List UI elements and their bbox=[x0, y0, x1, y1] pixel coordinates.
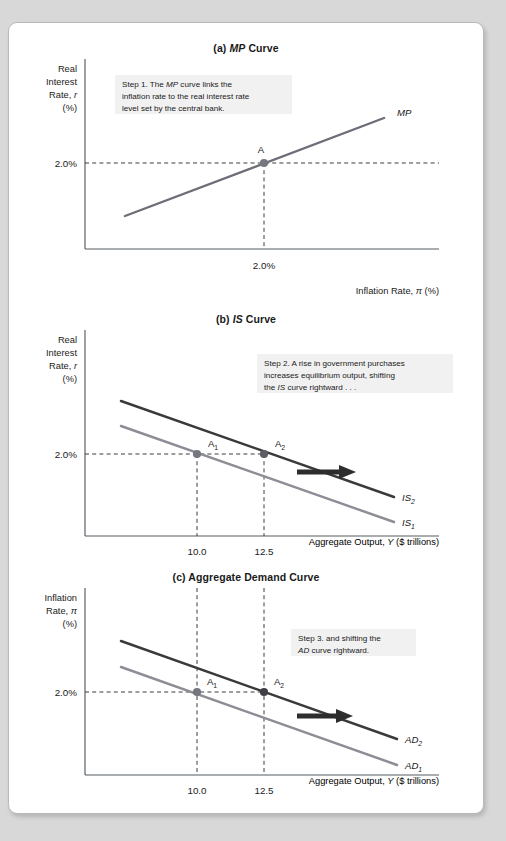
panel-a-point-a bbox=[260, 159, 268, 167]
panel-a-point-a-label: A bbox=[258, 144, 265, 155]
panel-b-ylabel-line-1: Real bbox=[58, 335, 77, 345]
panel-ad-curve: (c) Aggregate Demand Curve Inflation Rat… bbox=[9, 557, 483, 813]
panel-a-curve-mp bbox=[125, 118, 384, 216]
panel-a-ytick-label: 2.0% bbox=[55, 158, 78, 169]
panel-c-point-a2-label: A2 bbox=[274, 676, 284, 689]
panel-b-point-a1 bbox=[193, 450, 201, 458]
panel-a-xlabel: Inflation Rate, π (%) bbox=[356, 286, 439, 296]
panel-c-curve-label-ad2: AD2 bbox=[404, 734, 422, 747]
panel-b-point-a2-label: A2 bbox=[275, 438, 285, 451]
panel-c-note-line-1: Step 3. and shifting the bbox=[298, 634, 381, 643]
panel-b-point-a1-label: A1 bbox=[208, 438, 218, 451]
panel-a-chart: Real Interest Rate, r (%) MP A 2.0% 2.0%… bbox=[9, 23, 483, 299]
panel-c-ytick-label: 2.0% bbox=[55, 687, 78, 698]
panel-c-ylabel-line-3: (%) bbox=[63, 619, 77, 629]
panel-a-ylabel-line-1: Real bbox=[58, 64, 77, 74]
panel-b-note-line-1: Step 2. A rise in government purchases bbox=[264, 359, 405, 368]
panel-c-ylabel-line-1: Inflation bbox=[44, 593, 77, 603]
panel-c-xlabel-wrap: Aggregate Output, Y ($ trillions) bbox=[9, 770, 439, 788]
panel-b-curve-label-is2: IS2 bbox=[402, 492, 415, 505]
panel-is-curve: (b) IS Curve Real Interest Rate, r (%) I… bbox=[9, 299, 483, 557]
panel-c-point-a1 bbox=[193, 688, 201, 696]
panel-a-note-line-2: inflation rate to the real interest rate bbox=[122, 92, 250, 101]
panel-b-xlabel-wrap: Aggregate Output, Y ($ trillions) bbox=[9, 531, 439, 549]
panel-b-curve-label-is1: IS1 bbox=[402, 517, 415, 530]
panel-b-xlabel: Aggregate Output, Y ($ trillions) bbox=[309, 537, 439, 547]
panel-a-curve-label-mp: MP bbox=[397, 107, 412, 118]
panel-a-ylabel-line-2: Interest bbox=[46, 77, 77, 87]
panel-a-ylabel-line-4: (%) bbox=[63, 103, 77, 113]
panel-a-note-line-3: level set by the central bank. bbox=[122, 104, 225, 113]
panel-c-point-a2 bbox=[260, 688, 268, 696]
figure-card: (a) MP Curve Real Interest Rate, r (%) M… bbox=[8, 22, 484, 814]
panel-b-ylabel-line-4: (%) bbox=[63, 374, 77, 384]
panel-c-ylabel-line-2: Rate, π bbox=[46, 606, 78, 616]
panel-a-xtick-label-1: 2.0% bbox=[253, 260, 276, 271]
panel-b-ylabel-line-2: Interest bbox=[46, 348, 77, 358]
panel-c-point-a1-label: A1 bbox=[207, 676, 217, 689]
panel-c-curve-ad1 bbox=[121, 667, 397, 765]
panel-b-curve-is2 bbox=[121, 401, 394, 497]
panel-b-point-a2 bbox=[260, 450, 268, 458]
panel-c-xlabel: Aggregate Output, Y ($ trillions) bbox=[309, 776, 439, 786]
panel-c-note-line-2: AD curve rightward. bbox=[297, 646, 369, 655]
panel-b-note-line-3: the IS curve rightward . . . bbox=[264, 383, 356, 392]
panel-b-ytick-label: 2.0% bbox=[55, 449, 78, 460]
panel-b-chart: Real Interest Rate, r (%) IS2 IS1 A1 bbox=[9, 299, 483, 557]
panel-a-ylabel-line-3: Rate, r bbox=[49, 90, 78, 100]
panel-b-curve-is1 bbox=[121, 426, 394, 522]
panel-b-note-line-2: increases equilibrium output, shifting bbox=[264, 371, 395, 380]
panel-mp-curve: (a) MP Curve Real Interest Rate, r (%) M… bbox=[9, 23, 483, 299]
panel-a-note-line-1: Step 1. The MP curve links the bbox=[122, 80, 233, 89]
panel-b-ylabel-line-3: Rate, r bbox=[49, 361, 78, 371]
